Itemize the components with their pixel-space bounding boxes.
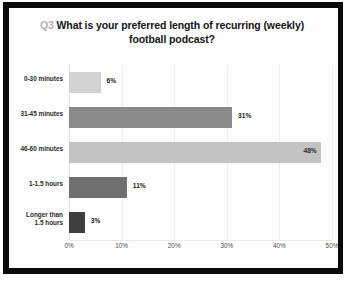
- x-tick-label: 30%: [220, 242, 233, 249]
- x-axis-line: [69, 240, 332, 241]
- chart-title-text: What is your preferred length of recurri…: [57, 19, 305, 45]
- bar[interactable]: [69, 212, 85, 233]
- chart-plot-area: 0-30 minutes6%31-45 minutes31%46-60 minu…: [69, 65, 332, 240]
- bar-category-label: 0-30 minutes: [9, 75, 63, 83]
- bar-row: 0-30 minutes6%: [69, 65, 332, 100]
- bar-value-label: 11%: [133, 182, 146, 189]
- bar[interactable]: [69, 72, 101, 93]
- bar-value-label: 3%: [91, 217, 101, 224]
- bar-category-label: 1-1.5 hours: [9, 180, 63, 188]
- question-number: Q3: [40, 19, 54, 31]
- bar-row: 1-1.5 hours11%: [69, 170, 332, 205]
- x-tick-label: 0%: [64, 242, 73, 249]
- gridline: [332, 65, 333, 240]
- bar-value-label: 48%: [303, 147, 316, 154]
- bar-value-label: 31%: [238, 112, 251, 119]
- bar-row: 31-45 minutes31%: [69, 100, 332, 135]
- slide-surface: Q3 What is your preferred length of recu…: [9, 8, 338, 268]
- chart-title: Q3 What is your preferred length of recu…: [27, 19, 317, 46]
- x-tick-label: 10%: [115, 242, 128, 249]
- bar-row: 46-60 minutes48%: [69, 135, 332, 170]
- slide-frame: Q3 What is your preferred length of recu…: [3, 2, 343, 274]
- bar[interactable]: [69, 107, 232, 128]
- x-tick-label: 20%: [168, 242, 181, 249]
- x-tick-label: 40%: [273, 242, 286, 249]
- bar-category-label: Longer than 1.5 hours: [9, 211, 63, 227]
- bar[interactable]: [69, 177, 127, 198]
- x-axis-tick-labels: 0%10%20%30%40%50%: [69, 242, 332, 256]
- bar-row: Longer than 1.5 hours3%: [69, 205, 332, 240]
- bar-category-label: 31-45 minutes: [9, 110, 63, 118]
- bar-value-label: 6%: [107, 77, 117, 84]
- bar[interactable]: [69, 142, 321, 163]
- bar-category-label: 46-60 minutes: [9, 145, 63, 153]
- x-tick-label: 50%: [326, 242, 338, 249]
